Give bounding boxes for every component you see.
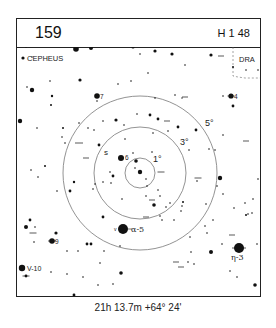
star [132, 152, 134, 154]
star [93, 129, 95, 131]
star [33, 241, 35, 243]
star [87, 127, 89, 129]
star [61, 136, 63, 138]
star [98, 144, 101, 147]
star [29, 219, 32, 222]
star [245, 214, 247, 216]
star-label-s: s [104, 148, 108, 157]
star [62, 127, 64, 129]
star-label-v10: V-10 [27, 265, 42, 272]
star [36, 127, 38, 129]
star [157, 189, 159, 191]
star [77, 297, 79, 299]
star [152, 203, 156, 207]
star [177, 126, 180, 129]
star [34, 226, 36, 228]
star [18, 119, 22, 123]
star [236, 276, 238, 278]
star [222, 95, 224, 97]
star [180, 210, 182, 212]
star [232, 105, 235, 108]
star [37, 176, 39, 178]
star [209, 53, 212, 56]
star [181, 97, 182, 98]
star [73, 181, 75, 183]
star [134, 167, 136, 169]
star [51, 95, 53, 97]
star [26, 86, 28, 88]
star [154, 97, 156, 99]
star [73, 294, 76, 297]
star [69, 190, 72, 193]
star [233, 207, 235, 209]
circle-label-1: 1° [153, 154, 162, 164]
star-label-eta: η-3 [231, 253, 244, 262]
star [257, 69, 259, 71]
star [118, 224, 128, 234]
star [188, 149, 190, 151]
star [24, 225, 28, 229]
star [181, 205, 183, 207]
star [49, 80, 51, 82]
star [206, 232, 208, 234]
star [157, 118, 160, 121]
star [190, 251, 192, 253]
constellation-label-cepheus: CEPHEUS [27, 54, 63, 63]
star-field: CEPHEUS DRA 1° 3° 5° 7 4 6 s 9 α-5 η-3 V… [0, 0, 276, 328]
star [138, 170, 142, 174]
star-label-6: 6 [125, 154, 129, 161]
star [146, 185, 148, 187]
star-label-alpha: α-5 [131, 225, 144, 234]
star [222, 134, 224, 136]
star [78, 78, 81, 81]
star [145, 195, 147, 197]
star [112, 175, 115, 178]
star-label-4: 4 [234, 93, 238, 100]
star [64, 142, 66, 144]
star [66, 273, 68, 275]
star [159, 215, 161, 217]
star-label-9: 9 [55, 238, 59, 245]
star [218, 176, 222, 180]
chart-center-coordinates: 21h 13.7m +64° 24' [0, 302, 276, 313]
star [117, 83, 119, 85]
star [50, 104, 52, 106]
star [89, 46, 93, 50]
star [184, 64, 186, 66]
star [121, 198, 123, 200]
star [97, 284, 99, 286]
star [123, 124, 125, 126]
star [103, 250, 105, 252]
star [149, 114, 152, 117]
star [214, 149, 216, 151]
star [232, 66, 234, 68]
circle-label-3: 3° [180, 137, 189, 147]
star [99, 262, 101, 264]
star [174, 94, 176, 96]
star [21, 56, 24, 59]
star [222, 193, 224, 195]
alpha-nu-mark: v [114, 226, 117, 232]
star [66, 250, 68, 252]
star [252, 198, 254, 200]
star [44, 165, 46, 167]
stars [18, 45, 259, 298]
circle-label-5: 5° [205, 118, 214, 128]
star [78, 122, 80, 124]
star [30, 88, 34, 92]
star [102, 216, 105, 219]
star [112, 283, 114, 285]
star [102, 120, 104, 122]
star [119, 271, 123, 275]
star [92, 188, 94, 190]
star [196, 180, 198, 182]
star [131, 45, 134, 48]
star [114, 118, 117, 121]
star [19, 265, 25, 271]
star [187, 261, 189, 263]
star [256, 243, 258, 245]
star [94, 93, 100, 99]
star [216, 185, 218, 187]
star [110, 182, 112, 184]
star [152, 132, 154, 134]
